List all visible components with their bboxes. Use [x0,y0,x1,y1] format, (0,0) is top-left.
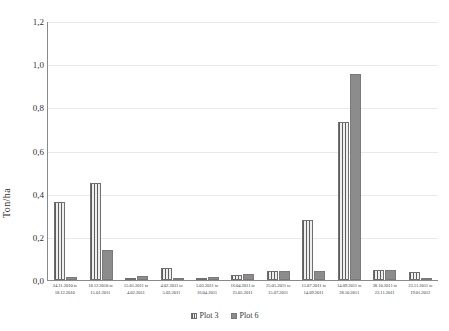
bar-group [83,22,118,280]
bar-group [367,22,402,280]
x-tick-label: 15.01.2011 to4.02.2011 [118,283,154,307]
x-tick-label: 14.09.2011 to28.10.2011 [331,283,367,307]
bar-plot-6 [208,277,219,280]
bar-plot-6 [314,271,325,280]
y-tick-label: 1,2 [18,18,44,27]
bar-group [119,22,154,280]
bar-plot-6 [137,276,148,280]
x-tick-label-line2: 15.07.2011 [268,290,288,297]
bar-group [261,22,296,280]
x-tick-label: 15.07.2011 to14.09.2011 [296,283,332,307]
x-tick-label-line2: 4.02.2011 [127,290,145,297]
bar-plot-6 [66,277,77,280]
bar-group [154,22,189,280]
x-tick-label-line2: 15.01.2011 [90,290,110,297]
bar-plot-3 [231,275,242,280]
x-tick-label: 18.12.2010 to15.01.2011 [83,283,119,307]
bar-group [190,22,225,280]
legend-swatch-icon [231,313,237,319]
bar-plot-3 [125,278,136,280]
plot-area [47,22,438,281]
x-tick-label-line2: 16.04.2011 [197,290,217,297]
bar-plot-3 [373,270,384,280]
y-axis-tick-labels: 1,21,00,80,60,40,20,0 [14,0,44,331]
bar-plot-3 [90,183,101,280]
bar-plot-3 [161,268,172,280]
bar-plot-3 [196,278,207,280]
legend-swatch-icon [191,313,197,319]
bar-plot-6 [173,278,184,280]
bar-group [332,22,367,280]
y-tick-label: 0,4 [18,191,44,200]
x-tick-label: 24.11.2010 to18.12.2010 [47,283,83,307]
x-tick-label: 4.02.2011 to5.03.2011 [154,283,190,307]
y-axis-title: Ton/ha [1,148,12,218]
bar-plot-6 [279,271,290,280]
x-tick-label: 5.03.2011 to16.04.2011 [189,283,225,307]
bar-group [48,22,83,280]
y-tick-label: 0,0 [18,277,44,286]
bar-plot-6 [350,74,361,280]
bar-group [296,22,331,280]
x-tick-label-line2: 14.09.2011 [304,290,324,297]
legend-item[interactable]: Plot 6 [231,311,259,320]
bar-plot-6 [421,278,432,280]
bar-chart: Ton/ha 1,21,00,80,60,40,20,0 24.11.2010 … [0,0,449,331]
x-tick-label: 23.11.2011 to19.01.2012 [402,283,438,307]
legend-label: Plot 3 [200,311,219,320]
x-tick-label-line2: 19.01.2012 [410,290,430,297]
bar-plot-3 [267,271,278,280]
bar-groups [48,22,438,280]
bar-group [403,22,438,280]
x-tick-label-line2: 23.11.2011 [375,290,395,297]
bar-plot-3 [302,220,313,280]
bar-plot-3 [409,272,420,280]
chart-legend: Plot 3Plot 6 [0,311,449,320]
bar-plot-6 [102,250,113,280]
x-tick-label: 28.10.2011 to23.11.2011 [367,283,403,307]
bar-group [225,22,260,280]
bar-plot-3 [54,202,65,280]
y-tick-label: 0,2 [18,234,44,243]
x-tick-label-line2: 5.03.2011 [163,290,181,297]
y-tick-label: 0,8 [18,104,44,113]
bar-plot-6 [243,274,254,280]
bar-plot-3 [338,122,349,280]
y-tick-label: 0,6 [18,148,44,157]
x-tick-label-line2: 18.12.2010 [55,290,75,297]
x-tick-label: 25.05.2011 to15.07.2011 [260,283,296,307]
x-tick-label-line2: 25.05.2011 [233,290,253,297]
legend-label: Plot 6 [240,311,259,320]
bar-plot-6 [385,270,396,280]
x-axis-tick-labels: 24.11.2010 to18.12.201018.12.2010 to15.0… [47,283,438,307]
x-tick-label: 16.04.2011 to25.05.2011 [225,283,261,307]
legend-item[interactable]: Plot 3 [191,311,219,320]
y-tick-label: 1,0 [18,61,44,70]
x-tick-label-line2: 28.10.2011 [339,290,359,297]
